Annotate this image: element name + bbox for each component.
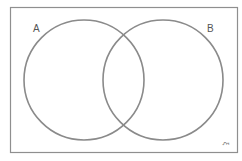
circle-a — [24, 20, 144, 140]
universal-set-symbol: ξ — [222, 142, 231, 146]
universal-set-rectangle — [11, 8, 238, 153]
circle-b — [103, 20, 223, 140]
set-a-label: A — [33, 23, 40, 34]
set-b-label: B — [207, 23, 214, 34]
